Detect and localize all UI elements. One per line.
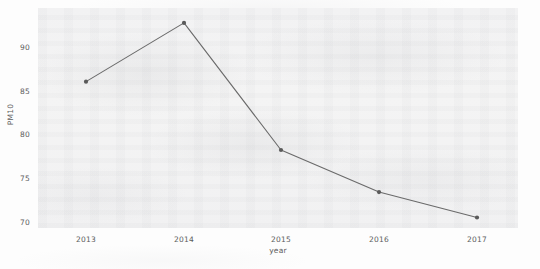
line-series-pm10 xyxy=(86,23,477,218)
chart-plot-area xyxy=(0,0,540,269)
chart-canvas: 90 85 80 75 70 2013 2014 2015 2016 2017 … xyxy=(0,0,540,269)
data-point-markers xyxy=(84,21,479,220)
data-point-2014 xyxy=(182,21,186,25)
data-point-2017 xyxy=(475,215,479,219)
data-point-2013 xyxy=(84,80,88,84)
data-point-2016 xyxy=(377,190,381,194)
data-point-2015 xyxy=(279,148,283,152)
